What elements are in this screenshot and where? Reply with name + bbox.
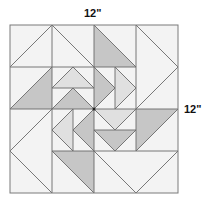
center-point — [93, 108, 96, 111]
width-dimension-label: 12" — [84, 8, 101, 19]
height-dimension-label: 12" — [184, 104, 201, 115]
quilt-block-diagram — [0, 0, 207, 203]
